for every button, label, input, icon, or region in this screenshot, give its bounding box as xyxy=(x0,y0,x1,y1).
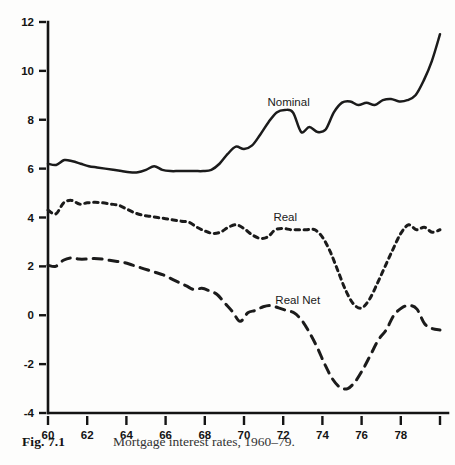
chart-plot: 121086420-2-4 60626466687072747678 Nomin… xyxy=(0,0,455,465)
y-tick-label: 8 xyxy=(28,114,35,126)
figure-caption-row: Fig. 7.1 Mortgage interest rates, 1960–7… xyxy=(0,434,455,458)
y-tick-label: 4 xyxy=(28,212,35,224)
y-tick-label: 6 xyxy=(28,163,34,175)
series-line-real-net xyxy=(48,258,440,389)
series-line-real xyxy=(48,200,440,308)
figure-container: 121086420-2-4 60626466687072747678 Nomin… xyxy=(0,0,455,465)
series-label-real: Real xyxy=(273,211,297,223)
y-tick-label: -2 xyxy=(24,358,34,370)
series-lines xyxy=(48,34,440,389)
figure-caption-text: Mortgage interest rates, 1960–79. xyxy=(113,434,295,450)
series-label-real-net: Real Net xyxy=(275,294,321,306)
figure-number: Fig. 7.1 xyxy=(22,434,65,450)
y-tick-label: 12 xyxy=(21,16,34,28)
y-tick-label: 2 xyxy=(28,260,34,272)
y-tick-label: 0 xyxy=(28,309,34,321)
series-line-nominal xyxy=(48,34,440,172)
y-axis: 121086420-2-4 xyxy=(21,16,48,419)
y-tick-label: 10 xyxy=(21,65,34,77)
y-tick-label: -4 xyxy=(24,407,35,419)
series-label-nominal: Nominal xyxy=(268,96,310,108)
